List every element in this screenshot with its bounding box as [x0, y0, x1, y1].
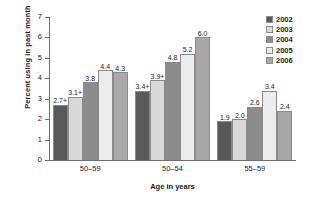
bar-value-label: 2.7+: [53, 97, 67, 104]
bar-value-label: 4.8: [168, 54, 178, 61]
x-axis-line: [49, 160, 296, 161]
y-axis-tick-label: 2: [38, 114, 42, 123]
legend-item[interactable]: 2005: [266, 45, 314, 55]
bar-value-label: 4.3: [115, 65, 125, 72]
legend-swatch-icon: [266, 36, 273, 43]
y-axis-tick: 1: [45, 140, 49, 141]
bar[interactable]: 4.8: [165, 62, 180, 160]
bar-value-label: 3.4+: [136, 83, 150, 90]
legend-swatch-icon: [266, 16, 273, 23]
bar-value-label: 3.4: [265, 83, 275, 90]
bar[interactable]: 3.1+: [68, 97, 83, 160]
bar-value-label: 2.0: [235, 112, 245, 119]
bar-value-label: 4.4: [100, 63, 110, 70]
y-axis-title: Percent using in past month: [23, 0, 37, 132]
y-axis-tick-label: 0: [38, 155, 42, 164]
y-axis-tick-label: 6: [38, 32, 42, 41]
bar[interactable]: 3.4: [262, 91, 277, 160]
legend-swatch-icon: [266, 57, 273, 64]
bar-value-label: 3.1+: [68, 89, 82, 96]
legend-item[interactable]: 2002: [266, 14, 314, 24]
bar[interactable]: 3.8: [83, 82, 98, 160]
y-axis-line: [49, 17, 50, 160]
bar-value-label: 2.4: [280, 103, 290, 110]
y-axis-tick: 7: [45, 17, 49, 18]
y-axis-tick-label: 3: [38, 94, 42, 103]
bar-chart: Percent using in past month 01234567 2.7…: [0, 0, 320, 212]
bar[interactable]: 4.4: [98, 70, 113, 160]
bar[interactable]: 2.7+: [53, 105, 68, 160]
bar[interactable]: 6.0: [195, 37, 210, 160]
legend-label: 2004: [276, 35, 293, 44]
bar[interactable]: 2.4: [277, 111, 292, 160]
y-axis-tick-label: 1: [38, 135, 42, 144]
bar-group: 3.4+3.9+4.85.26.050–54: [135, 17, 210, 160]
x-axis-category-label: 50–59: [80, 164, 101, 173]
plot-area: 01234567 2.7+3.1+3.84.44.350–593.4+3.9+4…: [49, 17, 296, 160]
bar[interactable]: 4.3: [113, 72, 128, 160]
bar[interactable]: 3.9+: [150, 80, 165, 160]
x-axis-category-label: 50–54: [162, 164, 183, 173]
y-axis-tick: 0: [45, 160, 49, 161]
legend-swatch-icon: [266, 26, 273, 33]
y-axis-tick-label: 7: [38, 12, 42, 21]
bar-value-label: 3.9+: [151, 73, 165, 80]
bar[interactable]: 2.6: [247, 107, 262, 160]
bar-value-label: 3.8: [85, 75, 95, 82]
legend-label: 2005: [276, 46, 293, 55]
legend-label: 2006: [276, 56, 293, 65]
bar-value-label: 6.0: [198, 30, 208, 37]
bar-value-label: 2.6: [250, 99, 260, 106]
bar-group: 2.7+3.1+3.84.44.350–59: [53, 17, 128, 160]
legend-item[interactable]: 2003: [266, 24, 314, 34]
legend-item[interactable]: 2006: [266, 56, 314, 66]
bar[interactable]: 2.0: [232, 119, 247, 160]
y-axis-tick: 2: [45, 119, 49, 120]
x-axis-title: Age in years: [49, 182, 296, 191]
y-axis-tick: 6: [45, 37, 49, 38]
bar[interactable]: 1.9: [217, 121, 232, 160]
bar-value-label: 1.9: [220, 114, 230, 121]
legend-label: 2003: [276, 25, 293, 34]
legend: 20022003200420052006: [266, 14, 314, 66]
legend-swatch-icon: [266, 47, 273, 54]
y-axis-tick-label: 5: [38, 53, 42, 62]
bar[interactable]: 3.4+: [135, 91, 150, 160]
y-axis-tick: 4: [45, 78, 49, 79]
bar[interactable]: 5.2: [180, 54, 195, 160]
y-axis-tick: 5: [45, 58, 49, 59]
legend-label: 2002: [276, 15, 293, 24]
x-axis-category-label: 55–59: [244, 164, 265, 173]
y-axis-tick: 3: [45, 99, 49, 100]
y-axis-tick-label: 4: [38, 73, 42, 82]
legend-item[interactable]: 2004: [266, 35, 314, 45]
bar-value-label: 5.2: [183, 46, 193, 53]
